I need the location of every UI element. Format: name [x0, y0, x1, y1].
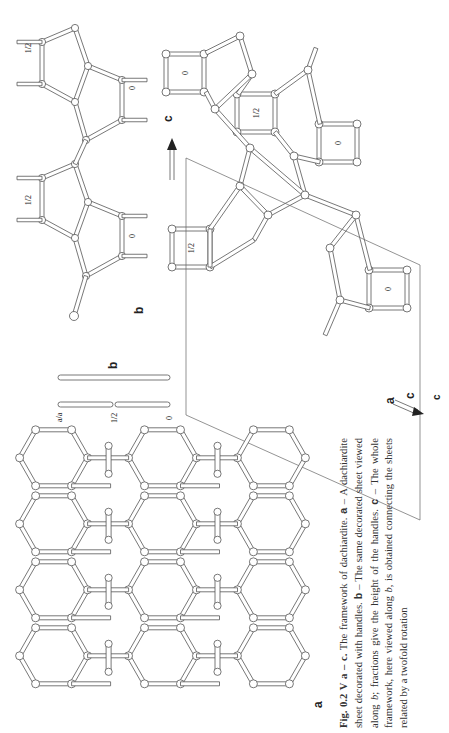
bond	[172, 227, 210, 231]
bond	[354, 215, 372, 271]
atom	[32, 624, 40, 632]
atom	[214, 668, 221, 675]
atom	[141, 614, 149, 622]
bond	[238, 35, 254, 74]
atom	[105, 640, 112, 647]
atom	[211, 105, 219, 113]
atom	[290, 152, 298, 160]
bond	[41, 82, 76, 104]
bond	[17, 82, 42, 86]
bond	[41, 26, 76, 44]
caption-c: c	[368, 499, 380, 505]
bond	[122, 214, 147, 218]
atom	[301, 454, 309, 462]
bond	[328, 248, 342, 301]
caption-text: ; fractions give the height of the handl…	[369, 505, 380, 695]
bond	[181, 616, 220, 620]
bond	[145, 682, 181, 686]
atom	[105, 508, 112, 515]
bond	[73, 237, 88, 276]
bond	[36, 682, 72, 686]
atom	[285, 492, 293, 500]
bond	[36, 428, 72, 432]
bond	[73, 27, 90, 66]
atom	[68, 426, 76, 434]
bond	[202, 54, 206, 92]
bond	[87, 64, 123, 82]
bond	[172, 265, 210, 269]
atom	[326, 244, 334, 252]
bond	[145, 616, 181, 620]
atom	[105, 668, 112, 675]
bond	[145, 560, 181, 564]
ring-height-label: 1/2	[24, 195, 33, 205]
atom	[249, 614, 257, 622]
bond	[73, 139, 88, 165]
panel-a-sheet	[16, 426, 310, 688]
atom	[71, 98, 78, 105]
ring-height-label: 1/2	[24, 43, 33, 53]
ring-height-label: 0	[334, 141, 343, 145]
bond	[73, 163, 90, 202]
atom	[285, 548, 293, 556]
caption-b: b	[352, 593, 364, 599]
atom	[214, 574, 221, 581]
bond	[36, 616, 72, 620]
bond	[253, 484, 289, 488]
bond	[253, 616, 289, 620]
bond	[122, 118, 147, 122]
atom	[236, 32, 244, 40]
atom	[105, 442, 112, 449]
atom	[32, 492, 40, 500]
atom	[84, 198, 91, 205]
atom	[249, 680, 257, 688]
bond	[164, 54, 168, 92]
bond	[166, 90, 204, 94]
bond	[36, 626, 72, 630]
atom	[249, 624, 257, 632]
atom	[84, 62, 91, 69]
bond	[323, 299, 342, 336]
atom	[32, 614, 40, 622]
bond	[106, 644, 111, 672]
atom	[249, 548, 257, 556]
atom	[353, 158, 361, 166]
atom	[246, 144, 254, 152]
caption-text: The framework of dachiardite.	[338, 514, 349, 654]
c-axis-label: c	[161, 115, 175, 122]
bond	[40, 178, 44, 220]
bond	[36, 484, 72, 488]
atom	[249, 426, 257, 434]
bond	[238, 147, 252, 186]
bond	[170, 229, 174, 267]
panel-b-detail-label: b	[132, 307, 146, 314]
figure-caption: Fig. 0.2 V a – c. The framework of dachi…	[336, 438, 411, 728]
bond	[120, 216, 124, 256]
caption-fig-number: Fig. 0.2 V a – c.	[338, 654, 349, 728]
bond	[41, 218, 76, 240]
bond	[166, 52, 204, 56]
bond	[122, 254, 147, 258]
bond	[145, 484, 181, 488]
atom	[32, 548, 40, 556]
bond	[319, 160, 357, 164]
atom	[32, 558, 40, 566]
atom	[285, 482, 293, 490]
bond	[215, 512, 220, 540]
atom	[248, 70, 256, 78]
bond	[120, 80, 124, 120]
bond	[237, 130, 275, 134]
atom	[249, 482, 257, 490]
atom	[105, 536, 112, 543]
atom	[352, 211, 360, 219]
height-label-zero: 0	[165, 416, 174, 420]
atom	[141, 426, 149, 434]
atom	[214, 602, 221, 609]
bond	[215, 644, 220, 672]
ring-height-label: 1/2	[252, 108, 261, 118]
bond	[106, 512, 111, 540]
height-label-half: 1/2	[110, 413, 119, 423]
bond	[253, 560, 289, 564]
bond	[73, 101, 88, 140]
ring-height-label: 0	[128, 234, 137, 238]
